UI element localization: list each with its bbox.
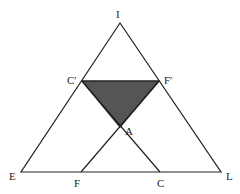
label-c: C: [157, 177, 164, 189]
label-l: L: [226, 170, 233, 182]
shaded-triangle: [82, 81, 159, 127]
label-i: I: [116, 8, 120, 20]
label-f-prime: F′: [164, 74, 173, 86]
label-a: A: [125, 125, 133, 137]
label-f: F: [74, 177, 80, 189]
label-e: E: [9, 170, 16, 182]
label-c-prime: C′: [67, 74, 77, 86]
triangle-diagram: I C′ F′ A E F C L: [0, 0, 240, 194]
